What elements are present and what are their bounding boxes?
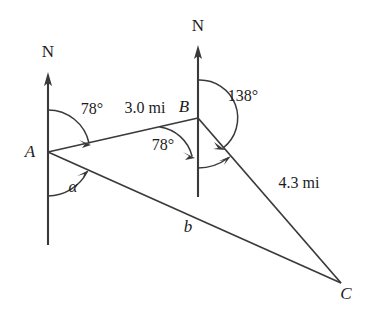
north-label-a: N — [42, 42, 54, 61]
north-label-b: N — [192, 16, 204, 35]
side-label-ab: 3.0 mi — [125, 99, 166, 116]
angle-label-b-interior: 78° — [152, 136, 174, 153]
vertex-label-a: A — [24, 142, 36, 161]
angle-arc-a-alpha — [48, 172, 87, 196]
bearing-triangle-figure: N N A B C 78° α 138° 78° 3.0 mi 4.3 mi b — [0, 0, 369, 310]
vertex-label-b: B — [179, 97, 190, 116]
angle-label-a-bearing: 78° — [81, 100, 103, 117]
side-label-ac: b — [184, 217, 193, 236]
angle-label-b-bearing: 138° — [228, 87, 258, 104]
north-line-a-group — [44, 72, 52, 245]
side-ac-line — [48, 152, 341, 283]
angle-label-a-alpha: α — [69, 177, 79, 196]
side-bc-line — [198, 118, 341, 283]
angle-arc-b-interior-arrowhead-icon — [183, 152, 195, 160]
vertex-label-c: C — [340, 284, 352, 303]
angle-arc-b-lower-group — [198, 156, 231, 168]
side-label-bc: 4.3 mi — [279, 174, 320, 191]
side-ab-line — [48, 118, 198, 152]
bearing-diagram: N N A B C 78° α 138° 78° 3.0 mi 4.3 mi b — [0, 0, 369, 310]
